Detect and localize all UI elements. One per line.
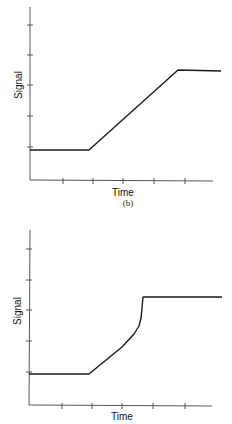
signal-trace [30, 70, 221, 150]
chart-bottom: Time Signal [12, 230, 222, 422]
y-axis-label: Signal [13, 71, 24, 99]
chart-top: Time Signal (b) [13, 7, 221, 208]
y-axis [29, 230, 30, 405]
signal-trace [29, 297, 222, 374]
figure: Time Signal (b) Time Signal [0, 0, 232, 424]
x-axis-label: Time [111, 411, 133, 422]
y-axis-label: Signal [12, 297, 23, 325]
x-axis [30, 180, 213, 181]
figure-caption: (b) [123, 198, 134, 208]
x-axis-label: Time [112, 187, 134, 198]
